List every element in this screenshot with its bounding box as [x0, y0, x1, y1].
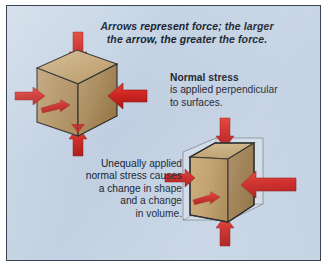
diagram-frame: Arrows represent force; the larger the a…: [6, 5, 321, 261]
caption-arrows-represent-force: Arrows represent force; the larger the a…: [89, 20, 285, 46]
stress-diagram-figure: Arrows represent force; the larger the a…: [0, 0, 328, 268]
normal-stress-heading: Normal stress: [170, 72, 302, 84]
caption-normal-stress: Normal stress is applied perpendicular t…: [170, 72, 302, 109]
caption-unequal-normal-stress: Unequally applied normal stress causes a…: [37, 158, 182, 220]
unequal-line-5: in volume.: [37, 208, 182, 220]
caption-top-line-2: the arrow, the greater the force.: [89, 33, 285, 46]
unequal-line-3: a change in shape: [37, 183, 182, 195]
unequal-line-4: and a change: [37, 195, 182, 207]
normal-stress-line-2: to surfaces.: [170, 97, 302, 109]
caption-top-line-1: Arrows represent force; the larger: [89, 20, 285, 33]
unequal-line-1: Unequally applied: [37, 158, 182, 170]
normal-stress-line-1: is applied perpendicular: [170, 84, 302, 96]
unequal-line-2: normal stress causes: [37, 170, 182, 182]
